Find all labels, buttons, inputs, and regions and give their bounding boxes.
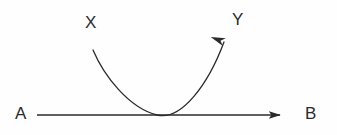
point-label-y: Y — [232, 11, 243, 28]
diagram-canvas: A B X Y — [0, 0, 337, 135]
tangent-curve — [93, 42, 224, 116]
point-label-a: A — [15, 105, 26, 122]
point-label-x: X — [85, 14, 96, 31]
diagram-svg — [0, 0, 337, 135]
point-label-b: B — [305, 105, 316, 122]
